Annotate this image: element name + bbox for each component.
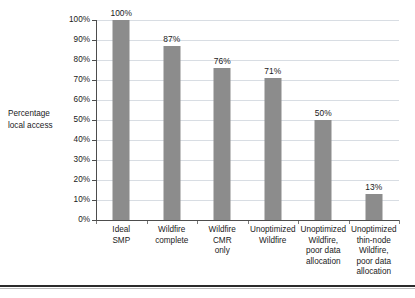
bar-value-label: 87% [163,35,180,43]
x-axis-category-label-line: SMP [93,236,150,247]
bar-value-label: 76% [214,57,231,65]
y-axis-tick-label: 0% [78,216,90,224]
x-axis-category-label-line: poor data [346,257,403,268]
y-axis-tick-label: 40% [74,136,90,144]
bar[interactable] [264,78,281,220]
x-axis-category-label-line: allocation [346,267,403,278]
y-axis-tick-label: 30% [74,156,90,164]
bar[interactable] [113,20,130,220]
x-axis-category-label: UnoptimizedWildfire [245,225,302,246]
x-axis-category-label-line: Ideal [93,225,150,236]
x-axis-category-label-line: Wildfire, [346,246,403,257]
y-axis-tick-label: 100% [69,16,90,24]
x-axis-category-label-line: only [194,246,251,257]
bar-value-label: 100% [111,9,132,17]
page-bottom-rule [0,285,415,287]
x-axis-category-label-line: poor data [295,246,352,257]
x-axis-category-label: UnoptimizedWildfire,poor dataallocation [295,225,352,267]
y-axis-tick-label: 70% [74,76,90,84]
x-axis-category-label: IdealSMP [93,225,150,246]
x-axis-category-label-line: Unoptimized [346,225,403,236]
y-axis-tick-label: 50% [74,116,90,124]
x-axis-category-label-line: CMR [194,236,251,247]
x-axis-category-label-line: Unoptimized [295,225,352,236]
bar[interactable] [365,194,382,220]
x-axis-tick [399,220,400,224]
bar[interactable] [214,68,231,220]
y-axis-title-line-1: Percentage [8,108,80,120]
x-axis-category-label-line: Wildfire [144,225,201,236]
bar[interactable] [163,46,180,220]
x-axis-category-label-line: thin-node [346,236,403,247]
page-bottom-rule-soft [0,288,415,289]
x-axis-category-label-line: Wildfire [194,225,251,236]
bar-slot: 76% [197,20,248,221]
y-axis-tick-label: 10% [74,196,90,204]
x-axis-category-label-line: Wildfire [245,236,302,247]
x-axis-category-label-line: allocation [295,257,352,268]
y-axis-title: Percentage local access [8,108,80,131]
bar-slot: 50% [298,20,349,221]
y-axis-tick-label: 90% [74,36,90,44]
bar-slot: 71% [248,20,299,221]
bar-value-label: 71% [264,67,281,75]
bar-slot: 13% [349,20,400,221]
x-axis-category-label-line: Unoptimized [245,225,302,236]
x-axis-category-label: Wildfirecomplete [144,225,201,246]
bar-chart-figure: Percentage local access 0%10%20%30%40%50… [0,0,415,298]
bar-slot: 100% [96,20,147,221]
y-axis-title-line-2: local access [8,120,80,132]
bar-value-label: 13% [365,183,382,191]
y-axis-tick-label: 60% [74,96,90,104]
x-axis-category-label: WildfireCMRonly [194,225,251,257]
bar-value-label: 50% [315,109,332,117]
plot-area: 0%10%20%30%40%50%60%70%80%90%100% 100%87… [96,20,399,221]
x-axis-category-label-line: Wildfire, [295,236,352,247]
y-axis-tick-label: 80% [74,56,90,64]
y-axis-line [96,20,97,221]
x-axis-line [96,220,399,221]
bar[interactable] [315,120,332,220]
bar-slot: 87% [147,20,198,221]
x-axis-category-label-line: complete [144,236,201,247]
y-axis-tick-label: 20% [74,176,90,184]
x-axis-category-label: Unoptimizedthin-nodeWildfire,poor dataal… [346,225,403,278]
